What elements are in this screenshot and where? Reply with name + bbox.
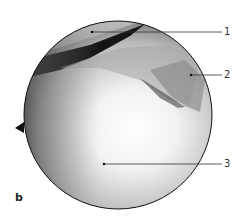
orientation-marker-icon	[15, 122, 24, 133]
scope-image	[0, 0, 243, 223]
label-1-dot	[91, 31, 94, 34]
label-3-dot	[103, 163, 106, 166]
label-3: 3	[224, 159, 230, 169]
label-2-dot	[190, 74, 193, 77]
arthroscopic-view	[0, 0, 243, 223]
panel-label: b	[15, 191, 23, 204]
label-2: 2	[224, 70, 230, 80]
label-1: 1	[224, 27, 230, 37]
